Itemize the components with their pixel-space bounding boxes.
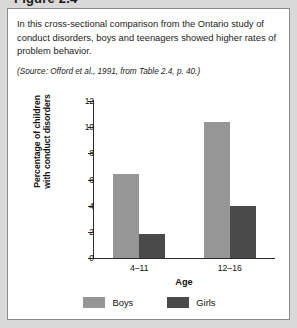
y-axis-tick-label: 4 [68, 202, 94, 210]
bar-girls-1 [230, 206, 256, 258]
figure-title-strip: Figure 2.4 [0, 0, 297, 7]
y-axis-tick-label-wrap: 0 [54, 254, 94, 255]
x-axis-tick-label: 4–11 [109, 263, 169, 273]
y-axis-tick-label: 2 [68, 228, 94, 236]
y-axis-tick-label-wrap: 2 [54, 228, 94, 229]
y-axis-tick-label-wrap: 8 [54, 149, 94, 150]
y-axis-tick-label: 10 [68, 123, 94, 131]
figure-panel: In this cross-sectional comparison from … [7, 8, 290, 320]
bar-boys-1 [204, 122, 230, 258]
chart-legend: BoysGirls [8, 297, 290, 308]
y-axis-title-line2: with conduct disorders [42, 78, 52, 204]
legend-swatch-boys [83, 297, 105, 308]
legend-item-girls: Girls [167, 297, 215, 308]
bar-chart: Percentage of children with conduct diso… [8, 9, 290, 320]
legend-label-boys: Boys [112, 297, 133, 308]
y-axis-tick-label-wrap: 10 [54, 123, 94, 124]
y-axis-tick-label: 6 [68, 176, 94, 184]
y-axis-tick-label: 12 [68, 97, 94, 105]
y-axis-title: Percentage of children with conduct diso… [32, 78, 53, 204]
y-axis-tick-label: 0 [68, 254, 94, 262]
x-axis-line [93, 258, 275, 259]
y-axis-tick-label: 8 [68, 149, 94, 157]
figure-title: Figure 2.4 [14, 0, 77, 6]
y-axis-tick-label-wrap: 4 [54, 202, 94, 203]
bars-layer [94, 101, 275, 258]
bar-boys-0 [113, 174, 139, 258]
legend-swatch-girls [167, 297, 189, 308]
legend-label-girls: Girls [196, 297, 215, 308]
x-axis-title: Age [93, 277, 275, 287]
y-axis-title-line1: Percentage of children [32, 78, 42, 204]
legend-item-boys: Boys [83, 297, 133, 308]
y-axis-tick-label-wrap: 6 [54, 176, 94, 177]
bar-girls-0 [139, 234, 165, 258]
x-axis-tick-label: 12–16 [200, 263, 260, 273]
y-axis-tick-label-wrap: 12 [54, 97, 94, 98]
